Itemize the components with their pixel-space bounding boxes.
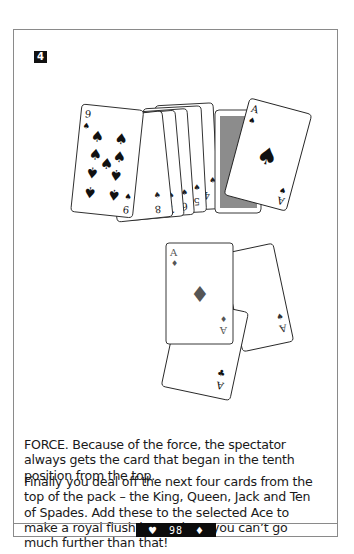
- svg-text:♦: ♦: [190, 282, 210, 307]
- svg-text:9: 9: [122, 204, 129, 216]
- spade-fan-illustration: 4 ♠ 5 ♠ 6 ♠ 7 ♠ 8 ♠ 9: [71, 103, 219, 222]
- svg-text:8: 8: [154, 203, 161, 215]
- svg-text:♠: ♠: [124, 192, 132, 202]
- page-number: 98: [169, 525, 183, 536]
- svg-text:♠: ♠: [153, 190, 161, 200]
- svg-text:9: 9: [84, 108, 91, 120]
- diamond-icon: ♦: [195, 525, 204, 536]
- svg-text:A: A: [169, 247, 178, 258]
- svg-text:♠: ♠: [193, 183, 201, 192]
- svg-text:♠: ♠: [114, 130, 129, 149]
- svg-text:♠: ♠: [108, 165, 123, 184]
- ace-over-deck-illustration: A ♠ ♠ ♠ A: [215, 98, 312, 213]
- three-aces-illustration: ♠ A ♣ A A ♦ ♦ ♦ A: [161, 243, 293, 401]
- heart-icon: ♥: [148, 525, 157, 536]
- svg-text:♠: ♠: [85, 163, 100, 182]
- svg-text:♠: ♠: [82, 183, 97, 202]
- svg-text:A: A: [219, 325, 228, 336]
- svg-text:5: 5: [193, 196, 200, 207]
- svg-text:♦: ♦: [220, 315, 227, 324]
- svg-text:♦: ♦: [171, 259, 178, 268]
- svg-text:♠: ♠: [90, 127, 105, 146]
- svg-text:♠: ♠: [106, 185, 121, 204]
- svg-text:♠: ♠: [82, 121, 90, 131]
- body-paragraph-2: Finally you deal off the next four cards…: [24, 474, 324, 550]
- page-number-folio: ♥ 98 ♦: [136, 523, 216, 537]
